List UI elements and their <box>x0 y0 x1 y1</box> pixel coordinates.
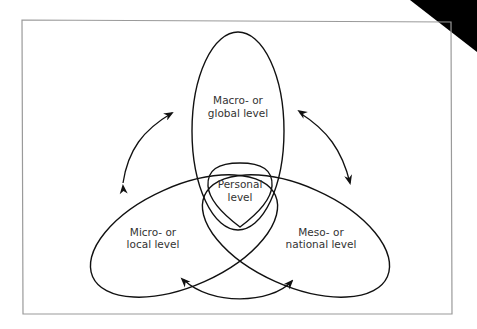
micro-label-line1: Micro- or <box>130 226 177 238</box>
diagram-frame <box>22 20 452 314</box>
meso-label-line1: Meso- or <box>298 226 344 238</box>
meso-label-line2: national level <box>286 238 357 250</box>
personal-label-line1: Personal <box>218 178 263 190</box>
arrow-macro-meso <box>300 113 350 183</box>
levels-diagram: Macro- or global level Personal level Mi… <box>0 0 477 329</box>
arrow-micro-macro <box>123 113 172 183</box>
corner-triangle <box>410 0 477 52</box>
personal-label-line2: level <box>228 191 253 203</box>
macro-label-line1: Macro- or <box>213 94 264 106</box>
micro-label-line2: local level <box>127 238 180 250</box>
arrowhead-icon <box>119 184 128 195</box>
arrowhead-icon <box>178 275 191 288</box>
macro-label-line2: global level <box>208 107 268 119</box>
